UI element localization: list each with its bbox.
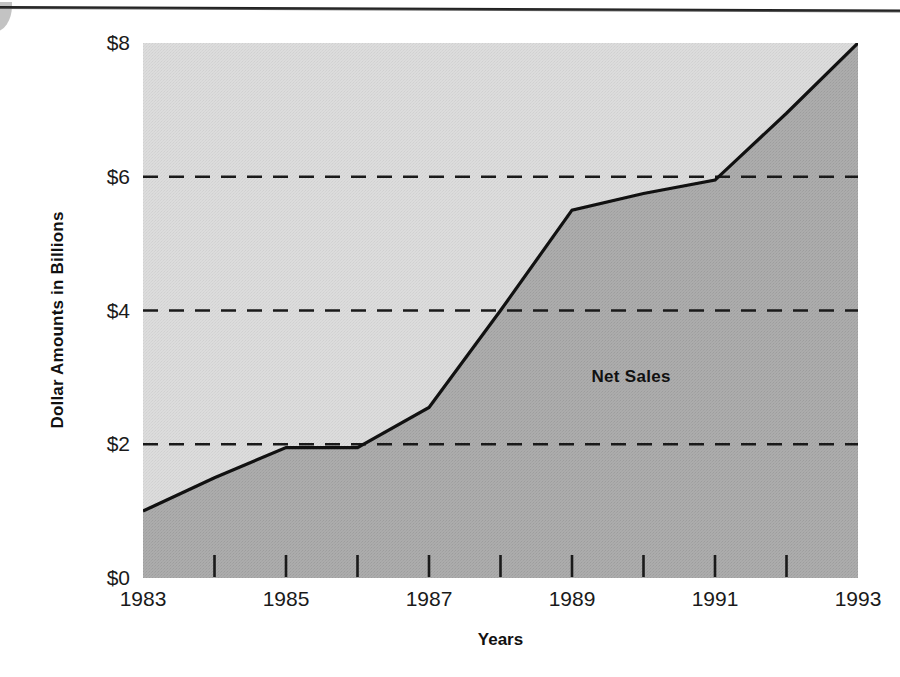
y-tick-label-6: $6 xyxy=(78,166,130,187)
y-tick-label-4: $4 xyxy=(78,300,130,321)
area-chart-figure: Dollar Amounts in Billions $0$2$4$6$8 xyxy=(0,0,900,677)
y-tick-label-8: $8 xyxy=(78,32,130,53)
x-tick-label-1985: 1985 xyxy=(241,588,331,609)
x-tick-label-1989: 1989 xyxy=(527,588,617,609)
net-sales-annotation: Net Sales xyxy=(592,367,671,387)
x-tick-label-1991: 1991 xyxy=(670,588,760,609)
x-tick-label-1983: 1983 xyxy=(98,588,188,609)
y-axis-tick-labels: $0$2$4$6$8 xyxy=(78,0,130,677)
x-axis-title: Years xyxy=(143,630,858,650)
y-axis-title: Dollar Amounts in Billions xyxy=(48,150,68,490)
y-tick-label-0: $0 xyxy=(78,567,130,588)
x-tick-label-1987: 1987 xyxy=(384,588,474,609)
y-tick-label-2: $2 xyxy=(78,433,130,454)
chart-canvas xyxy=(143,43,858,578)
plot-area: Net Sales xyxy=(143,43,858,578)
x-tick-label-1993: 1993 xyxy=(813,588,900,609)
